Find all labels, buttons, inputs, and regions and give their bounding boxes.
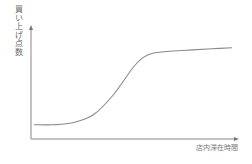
chart-svg [0, 0, 252, 164]
data-line [34, 48, 232, 125]
chart-area: 買い上げ点数 店内滞在時間 [0, 0, 252, 164]
x-axis-label: 店内滞在時間 [196, 142, 238, 152]
y-axis [29, 25, 33, 139]
x-axis-arrow-icon [234, 137, 239, 141]
y-axis-arrow-icon [29, 25, 33, 30]
y-axis-label: 買い上げ点数 [12, 5, 22, 56]
x-axis [31, 137, 239, 141]
